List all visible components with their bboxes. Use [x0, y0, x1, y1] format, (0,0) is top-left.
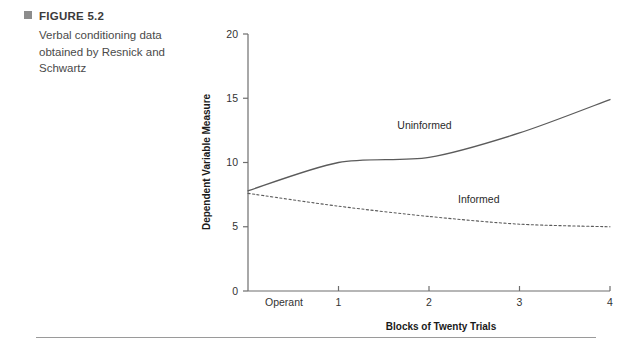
y-tick-label: 20 — [226, 28, 238, 40]
x-tick-label: Operant — [265, 296, 303, 308]
footer-divider — [36, 337, 596, 338]
figure-caption-heading: FIGURE 5.2 — [24, 10, 184, 22]
series-line-informed — [248, 193, 610, 226]
x-axis-title: Blocks of Twenty Trials — [386, 321, 497, 332]
y-tick-label: 10 — [226, 156, 238, 168]
series-line-uninformed — [248, 100, 610, 191]
y-tick-label: 15 — [226, 92, 238, 104]
figure-chart: 05101520 Operant1234 UninformedInformed … — [196, 6, 626, 336]
y-tick-label: 5 — [232, 220, 238, 232]
line-chart-svg: 05101520 Operant1234 UninformedInformed … — [196, 6, 626, 336]
series-annotation-group: UninformedInformed — [397, 119, 499, 205]
figure-description: Verbal conditioning data obtained by Res… — [39, 27, 184, 77]
x-tick-label: 1 — [336, 296, 342, 308]
y-axis-title: Dependent Variable Measure — [201, 93, 212, 230]
figure-number-label: FIGURE 5.2 — [39, 10, 104, 22]
x-tick-label: 3 — [517, 296, 523, 308]
series-label-uninformed: Uninformed — [397, 119, 451, 131]
y-axis-ticks: 05101520 — [226, 28, 248, 297]
series-label-informed: Informed — [458, 193, 500, 205]
figure-caption-block: FIGURE 5.2 Verbal conditioning data obta… — [24, 10, 184, 77]
square-bullet-icon — [24, 11, 32, 19]
x-axis-ticks: Operant1234 — [265, 286, 613, 308]
x-tick-label: 2 — [426, 296, 432, 308]
x-tick-label: 4 — [607, 296, 613, 308]
y-tick-label: 0 — [232, 285, 238, 297]
